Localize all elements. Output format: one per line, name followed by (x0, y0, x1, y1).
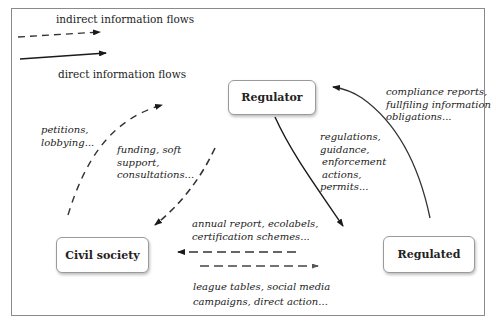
label-regulator-to-civil: funding, soft support, consultations... (117, 144, 194, 182)
label-regulator-to-regulated: regulations, guidance, enforcement actio… (320, 131, 386, 194)
label-regulated-to-regulator: compliance reports, fullfiling informati… (386, 86, 491, 124)
legend-direct-label: direct information flows (58, 68, 186, 80)
node-civil-society: Civil society (56, 237, 149, 273)
label-regulated-to-civil: annual report, ecolabels, certification … (192, 218, 318, 243)
label-civil-to-regulator: petitions, lobbying... (41, 124, 94, 149)
legend-indirect-arrow-icon (18, 32, 100, 37)
legend-direct-arrow-icon (20, 53, 106, 59)
flow-arrows (0, 0, 496, 326)
node-regulator: Regulator (228, 80, 316, 115)
node-regulated: Regulated (383, 236, 475, 273)
label-civil-to-regulated: league tables, social media campaigns, d… (193, 279, 330, 309)
legend-indirect-label: indirect information flows (56, 13, 194, 25)
